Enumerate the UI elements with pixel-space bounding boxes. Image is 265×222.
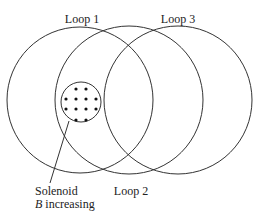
field-dot-icon [84, 118, 87, 121]
solenoid-label: Solenoid [35, 184, 78, 198]
diagram-canvas: Loop 1 Loop 3 Loop 2 Solenoid B increasi… [0, 0, 265, 222]
loop-3-label: Loop 3 [161, 12, 195, 26]
field-dot-icon [74, 97, 77, 100]
field-dot-icon [84, 107, 87, 110]
field-dot-icon [84, 87, 87, 90]
field-increasing-label: B increasing [35, 197, 95, 211]
loop-1-label: Loop 1 [65, 12, 99, 26]
field-dot-icon [94, 97, 97, 100]
field-dot-icon [64, 107, 67, 110]
solenoid [50, 82, 101, 183]
field-dot-icon [74, 107, 77, 110]
field-dot-icon [94, 107, 97, 110]
field-dot-icon [74, 87, 77, 90]
loop-3-circle [104, 26, 252, 174]
labels-group: Loop 1 Loop 3 Loop 2 Solenoid B increasi… [35, 12, 195, 211]
field-dot-icon [64, 97, 67, 100]
field-dot-icon [74, 118, 77, 121]
field-dot-icon [84, 97, 87, 100]
solenoid-circle [61, 82, 101, 122]
loop-2-label: Loop 2 [114, 184, 148, 198]
loops-group [7, 26, 252, 174]
solenoid-leader-line [50, 121, 69, 183]
field-text: increasing [42, 197, 94, 211]
